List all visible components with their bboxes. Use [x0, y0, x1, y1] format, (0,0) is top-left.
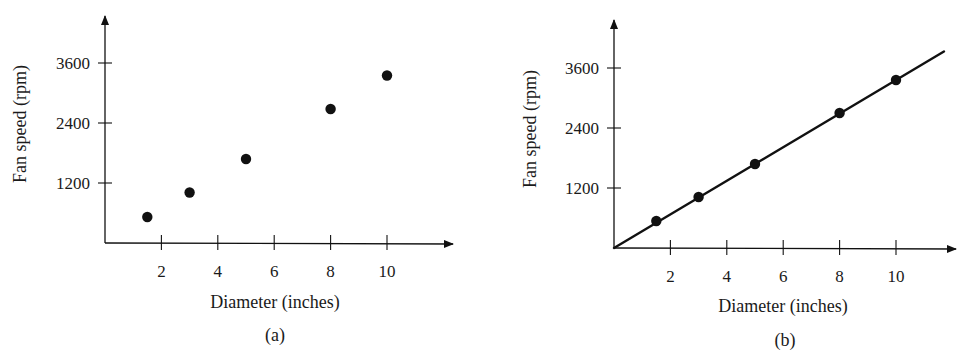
data-point [834, 108, 844, 118]
y-tick-label: 1200 [56, 174, 90, 193]
x-tick-label: 2 [666, 267, 675, 286]
y-tick-labels: 120024003600 [56, 54, 90, 193]
y-axis-title: Fan speed (rpm) [10, 65, 31, 183]
x-axis [614, 240, 956, 255]
x-tick-label: 10 [888, 267, 905, 286]
y-tick-label: 3600 [565, 59, 599, 78]
x-tick-label: 6 [270, 262, 279, 281]
y-tick-label: 2400 [565, 119, 599, 138]
x-tick-label: 4 [723, 267, 732, 286]
data-point [651, 216, 661, 226]
x-tick-label: 8 [835, 267, 844, 286]
y-axis-title: Fan speed (rpm) [520, 70, 541, 188]
x-axis-line [105, 243, 453, 244]
data-points [142, 70, 392, 222]
x-tick-label: 4 [214, 262, 223, 281]
data-point [693, 192, 703, 202]
data-point [382, 70, 392, 80]
chart-panel-a: 120024003600 246810 Diameter (inches) Fa… [10, 16, 453, 346]
data-point [241, 154, 251, 164]
x-tick-label: 8 [326, 262, 335, 281]
x-tick-label: 2 [157, 262, 166, 281]
figure: 120024003600 246810 Diameter (inches) Fa… [0, 0, 958, 363]
y-tick-label: 2400 [56, 114, 90, 133]
data-point [142, 212, 152, 222]
x-axis-line [614, 248, 956, 249]
x-tick-label: 6 [779, 267, 788, 286]
data-point [750, 159, 760, 169]
x-tick-labels: 246810 [666, 267, 904, 286]
data-point [184, 187, 194, 197]
panel-label: (a) [265, 325, 285, 346]
chart-panel-b: 120024003600 246810 Diameter (inches) Fa… [520, 20, 956, 351]
x-axis-title: Diameter (inches) [210, 292, 339, 313]
x-axis-title: Diameter (inches) [718, 296, 847, 317]
panel-label: (b) [775, 330, 796, 351]
figure-canvas: 120024003600 246810 Diameter (inches) Fa… [0, 0, 958, 363]
x-tick-label: 10 [379, 262, 396, 281]
y-tick-labels: 120024003600 [565, 59, 599, 198]
data-point [325, 104, 335, 114]
y-axis [607, 20, 621, 248]
y-axis [98, 16, 112, 243]
data-point [891, 75, 901, 85]
x-axis [105, 235, 453, 250]
x-tick-labels: 246810 [157, 262, 395, 281]
y-tick-label: 3600 [56, 54, 90, 73]
y-tick-label: 1200 [565, 179, 599, 198]
